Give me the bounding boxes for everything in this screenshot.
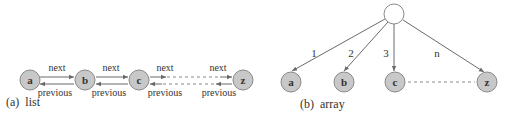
array-node-z: z xyxy=(477,72,497,92)
diagram-canvas: next previous next previous next next pr… xyxy=(0,0,514,124)
index-label: 3 xyxy=(383,47,389,59)
node-label: z xyxy=(241,74,246,86)
array-node-c: c xyxy=(385,72,405,92)
array-diagram: 1 2 3 n a b c z (b) array xyxy=(281,4,497,111)
array-node-b: b xyxy=(334,72,354,92)
node-label: z xyxy=(485,76,490,88)
list-node-c: c xyxy=(129,70,149,90)
node-label: a xyxy=(288,76,294,88)
node-label: c xyxy=(137,74,142,86)
previous-label: previous xyxy=(202,87,237,98)
next-label: next xyxy=(48,62,65,73)
next-label: next xyxy=(209,62,226,73)
pointer-arrow-n xyxy=(403,20,484,72)
index-label: 1 xyxy=(311,47,317,59)
previous-label: previous xyxy=(92,87,127,98)
node-label: a xyxy=(27,74,33,86)
pointer-arrow-1 xyxy=(292,19,385,71)
node-label: b xyxy=(341,76,347,88)
index-label: n xyxy=(434,47,440,59)
previous-label: previous xyxy=(38,87,73,98)
array-caption: (b) array xyxy=(300,97,345,111)
node-label: b xyxy=(82,74,88,86)
node-label: c xyxy=(393,76,398,88)
list-node-z: z xyxy=(233,70,253,90)
index-label: 2 xyxy=(348,47,354,59)
list-caption: (a) list xyxy=(6,95,41,109)
list-node-a: a xyxy=(20,70,40,90)
list-diagram: next previous next previous next next pr… xyxy=(6,62,253,109)
array-root-node xyxy=(384,4,404,24)
next-label: next xyxy=(102,62,119,73)
list-node-b: b xyxy=(75,70,95,90)
array-node-a: a xyxy=(281,72,301,92)
previous-label: previous xyxy=(148,87,183,98)
next-label: next xyxy=(156,62,173,73)
